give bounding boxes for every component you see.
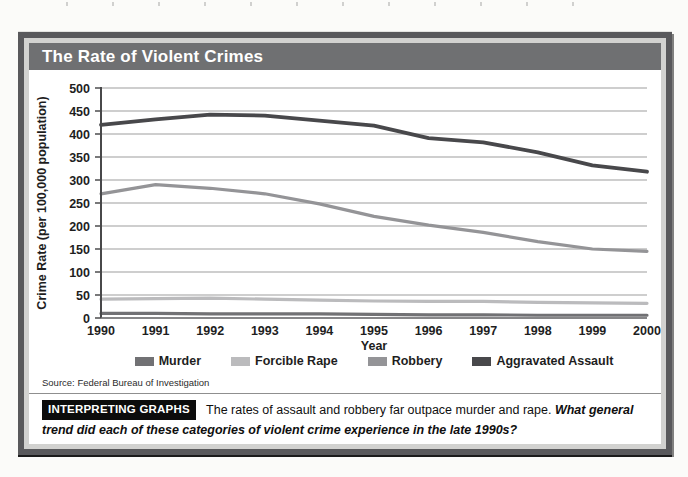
y-tick-label: 300 bbox=[69, 174, 90, 188]
series-line-murder bbox=[101, 313, 647, 315]
x-axis-title: Year bbox=[361, 339, 388, 353]
interpreting-graphs-badge: INTERPRETING GRAPHS bbox=[42, 400, 196, 420]
chart-legend: MurderForcible RapeRobberyAggravated Ass… bbox=[87, 354, 661, 368]
x-tick-label: 1992 bbox=[196, 324, 224, 338]
legend-label-robbery: Robbery bbox=[392, 354, 443, 368]
x-tick-label: 1998 bbox=[524, 324, 552, 338]
y-tick-label: 450 bbox=[69, 105, 90, 119]
legend-label-forcible-rape: Forcible Rape bbox=[255, 354, 338, 368]
y-tick-label: 100 bbox=[69, 266, 90, 280]
x-tick-label: 1997 bbox=[469, 324, 497, 338]
y-tick-label: 150 bbox=[69, 243, 90, 257]
interpreting-graphs-section: INTERPRETING GRAPHS The rates of assault… bbox=[29, 394, 661, 440]
y-tick-label: 250 bbox=[69, 197, 90, 211]
legend-swatch-forcible-rape bbox=[231, 357, 250, 366]
x-tick-label: 2000 bbox=[633, 324, 661, 338]
grid-layer bbox=[101, 88, 647, 318]
legend-swatch-murder bbox=[135, 357, 154, 366]
page-crop-artifact bbox=[66, 2, 586, 6]
x-tick-label: 1990 bbox=[87, 324, 115, 338]
legend-item-robbery: Robbery bbox=[368, 354, 443, 368]
series-line-robbery bbox=[101, 185, 647, 252]
legend-item-forcible-rape: Forcible Rape bbox=[231, 354, 338, 368]
legend-swatch-aggravated-assault bbox=[472, 357, 491, 366]
legend-item-aggravated-assault: Aggravated Assault bbox=[472, 354, 613, 368]
crime-rate-line-chart: 0501001502002503003504004505001990199119… bbox=[31, 76, 661, 356]
y-tick-label: 50 bbox=[76, 289, 90, 303]
figure-content: The Rate of Violent Crimes 0501001502002… bbox=[29, 43, 661, 444]
x-tick-label: 1991 bbox=[142, 324, 170, 338]
y-tick-label: 350 bbox=[69, 151, 90, 165]
chart-title: The Rate of Violent Crimes bbox=[42, 47, 263, 66]
y-axis-title: Crime Rate (per 100,000 population) bbox=[35, 96, 49, 309]
series-line-aggravated-assault bbox=[101, 115, 647, 172]
legend-label-murder: Murder bbox=[159, 354, 201, 368]
series-line-forcible-rape bbox=[101, 298, 647, 303]
legend-label-aggravated-assault: Aggravated Assault bbox=[496, 354, 613, 368]
x-tick-label: 1996 bbox=[415, 324, 443, 338]
y-tick-label: 500 bbox=[69, 82, 90, 96]
interpreting-graphs-text: The rates of assault and robbery far out… bbox=[206, 403, 551, 417]
chart-title-bar: The Rate of Violent Crimes bbox=[29, 43, 661, 70]
figure-frame: The Rate of Violent Crimes 0501001502002… bbox=[18, 32, 672, 455]
figure-frame-inner: The Rate of Violent Crimes 0501001502002… bbox=[24, 38, 666, 449]
x-tick-label: 1995 bbox=[360, 324, 388, 338]
legend-swatch-robbery bbox=[368, 357, 387, 366]
y-tick-label: 200 bbox=[69, 220, 90, 234]
y-tick-label: 400 bbox=[69, 128, 90, 142]
x-tick-label: 1993 bbox=[251, 324, 279, 338]
source-note: Source: Federal Bureau of Investigation bbox=[42, 377, 661, 388]
x-tick-label: 1999 bbox=[578, 324, 606, 338]
legend-item-murder: Murder bbox=[135, 354, 201, 368]
x-tick-label: 1994 bbox=[305, 324, 333, 338]
series-layer bbox=[101, 115, 647, 316]
